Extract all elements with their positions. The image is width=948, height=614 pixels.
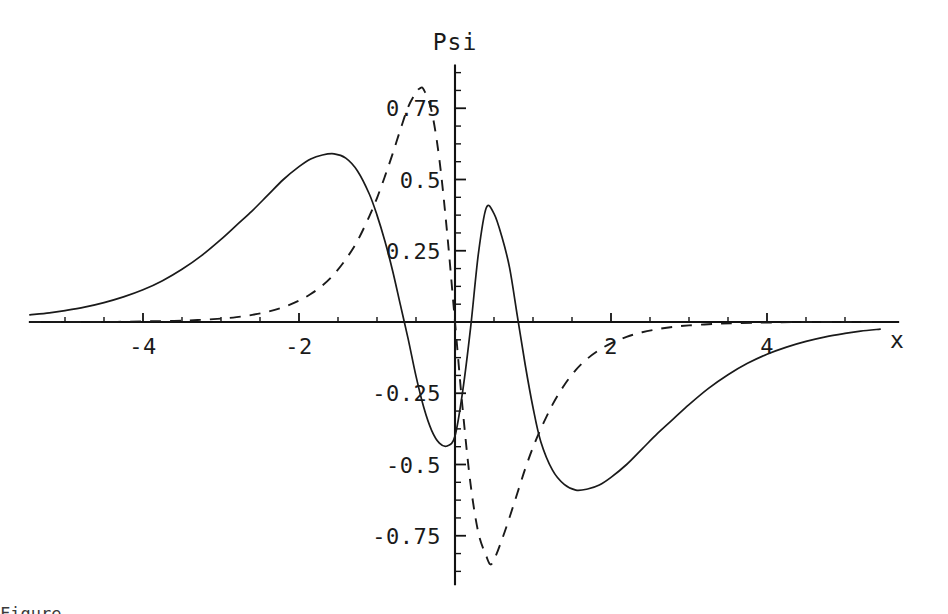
plot-figure: -4-2240.750.50.25-0.25-0.5-0.75 Psi x Fi…: [0, 0, 948, 614]
y-tick-label: -0.75: [372, 524, 441, 549]
x-tick-label: -2: [285, 334, 313, 359]
y-tick-label: 0.5: [400, 168, 441, 193]
y-tick-label: 0.25: [386, 239, 441, 264]
x-axis-label: x: [890, 327, 904, 353]
axes-group: [30, 66, 898, 585]
y-tick-label: -0.25: [372, 381, 441, 406]
y-tick-label: -0.5: [386, 453, 441, 478]
cut-off-caption: Figure: [0, 604, 120, 614]
y-tick-label: 0.75: [386, 96, 441, 121]
plot-canvas: -4-2240.750.50.25-0.25-0.5-0.75 Psi x: [0, 0, 948, 614]
x-tick-label: 4: [760, 334, 774, 359]
x-tick-label: 2: [604, 334, 618, 359]
x-tick-label: -4: [129, 334, 157, 359]
plot-title: Psi: [433, 29, 478, 55]
